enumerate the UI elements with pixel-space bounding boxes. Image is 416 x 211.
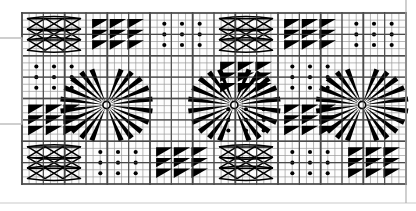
motif-dot: [308, 64, 312, 68]
motif-dot: [134, 171, 138, 175]
motif-dot: [70, 64, 74, 68]
motif-dot: [390, 22, 394, 26]
motif-dot: [290, 86, 294, 90]
motif-dot: [290, 171, 294, 175]
pattern-chart-canvas: [0, 0, 416, 211]
motif-dot: [290, 64, 294, 68]
motif-dot: [372, 22, 376, 26]
starburst-center-ring: [231, 101, 238, 108]
motif-dot: [326, 150, 330, 154]
motif-dot: [326, 64, 330, 68]
motif-dot: [162, 43, 166, 47]
motif-dot: [134, 150, 138, 154]
motif-dot: [372, 43, 376, 47]
motif-dot: [308, 171, 312, 175]
motif-dot: [52, 64, 56, 68]
motif-dot: [34, 86, 38, 90]
motif-dot: [52, 86, 56, 90]
motif-dot: [390, 43, 394, 47]
motif-dot: [290, 150, 294, 154]
motif-dot: [198, 43, 202, 47]
motif-dot: [116, 150, 120, 154]
motif-dot: [34, 64, 38, 68]
motif-dot: [308, 86, 312, 90]
motif-dot: [180, 43, 184, 47]
motif-dot: [198, 22, 202, 26]
motif-dot: [354, 43, 358, 47]
starburst-center-ring: [359, 101, 366, 108]
motif-dot: [180, 22, 184, 26]
motif-dot: [308, 150, 312, 154]
motif-dot: [162, 22, 166, 26]
motif-dot: [326, 171, 330, 175]
embroidery-chart-svg: [0, 0, 416, 211]
motif-dot: [354, 22, 358, 26]
motif-dot: [98, 171, 102, 175]
motif-dot: [226, 128, 230, 132]
starburst-center-ring: [103, 101, 110, 108]
motif-dot: [98, 150, 102, 154]
motif-dot: [116, 171, 120, 175]
